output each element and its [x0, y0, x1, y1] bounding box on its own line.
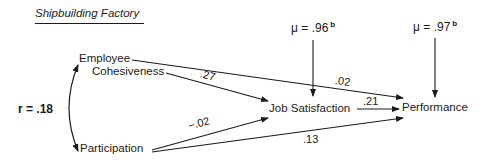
path-employee-performance: [132, 60, 403, 98]
correlation-arc: [69, 65, 78, 151]
correlation-label: r = .18: [18, 103, 53, 115]
coef-jobsat-performance: .21: [363, 96, 378, 107]
title-underline: [35, 23, 144, 24]
residual-label-performance: μ = .97b: [413, 20, 457, 33]
node-job-satisfaction: Job Satisfaction: [269, 103, 350, 115]
residual-label-job-satisfaction: μ = .96b: [291, 21, 335, 34]
node-employee: Employee: [79, 53, 130, 65]
node-performance: Performance: [402, 102, 468, 114]
coef-participation-performance: .13: [303, 134, 318, 145]
node-cohesiveness: Cohesiveness: [92, 66, 164, 78]
node-participation: Participation: [80, 143, 143, 155]
coef-employee-performance: .02: [334, 75, 351, 88]
diagram-title: Shipbuilding Factory: [35, 8, 139, 20]
